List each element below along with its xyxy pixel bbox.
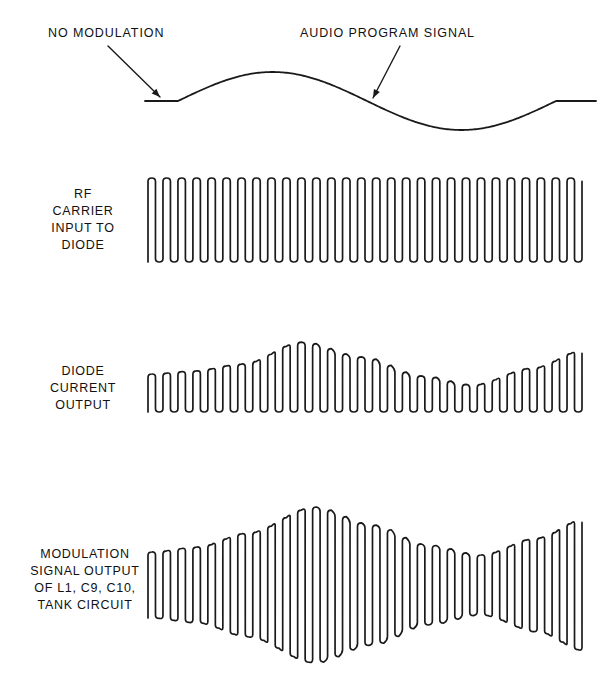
trace-label-line: CARRIER — [24, 203, 142, 220]
trace-label-line: SIGNAL OUTPUT — [14, 563, 156, 580]
trace-label-line: TANK CIRCUIT — [14, 597, 156, 614]
trace-label-line: RF — [24, 186, 142, 203]
waveform-diagram-page: NO MODULATION AUDIO PROGRAM SIGNAL RF CA… — [0, 0, 616, 685]
diode-current-output-waveform — [148, 342, 582, 412]
trace-label-line: MODULATION — [14, 546, 156, 563]
callout-label-audio-program-signal: AUDIO PROGRAM SIGNAL — [300, 26, 475, 40]
modulation-signal-output-waveform — [148, 507, 582, 662]
trace-label-line: CURRENT — [24, 380, 142, 397]
trace-label-modulation-signal-output: MODULATION SIGNAL OUTPUT OF L1, C9, C10,… — [14, 546, 156, 614]
callout-label-no-modulation: NO MODULATION — [48, 26, 164, 40]
trace-label-rf-carrier-input-to-diode: RF CARRIER INPUT TO DIODE — [24, 186, 142, 254]
rf-carrier-trace — [148, 178, 582, 262]
rf-carrier-input-waveform — [148, 178, 582, 262]
audio-sine-trace — [145, 72, 596, 130]
trace-label-line: INPUT TO — [24, 220, 142, 237]
trace-label-line: OUTPUT — [24, 397, 142, 414]
diode-current-trace — [148, 342, 582, 412]
trace-label-line: DIODE — [24, 363, 142, 380]
leader-arrowhead — [373, 89, 380, 98]
trace-label-line: DIODE — [24, 237, 142, 254]
audio-program-waveform — [145, 72, 596, 130]
trace-label-diode-current-output: DIODE CURRENT OUTPUT — [24, 363, 142, 414]
modulation-output-trace — [148, 507, 582, 662]
callout-leader-group — [108, 46, 400, 98]
trace-label-line: OF L1, C9, C10, — [14, 580, 156, 597]
